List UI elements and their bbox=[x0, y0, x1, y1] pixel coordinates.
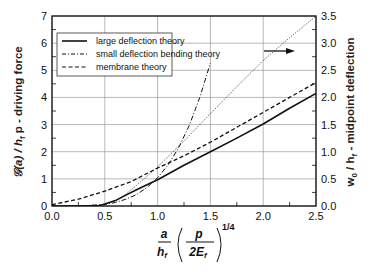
y-left-tick-label: 5 bbox=[41, 64, 47, 76]
x-title-p: p bbox=[194, 227, 202, 241]
y-right-tick-label: 2.5 bbox=[321, 64, 336, 76]
y-right-tick-label: 0.0 bbox=[321, 200, 336, 212]
y-left-tick-label: 0 bbox=[41, 200, 47, 212]
legend-label-small-deflection: small deflection bending theory bbox=[96, 49, 221, 59]
series-line-dashed bbox=[52, 83, 316, 205]
y-left-tick-label: 3 bbox=[41, 119, 47, 131]
right-axis-arrow bbox=[264, 48, 295, 54]
y-left-tick-label: 1 bbox=[41, 173, 47, 185]
series-line-solid bbox=[52, 93, 316, 206]
x-title-exponent: 1/4 bbox=[222, 222, 235, 232]
y-axis-left-title: 𝒢(a) / hf p - driving force bbox=[12, 46, 27, 177]
x-title-a: a bbox=[161, 227, 168, 241]
y-right-tick-label: 1.5 bbox=[321, 119, 336, 131]
left-paren bbox=[178, 228, 182, 262]
y-right-tick-label: 3.5 bbox=[321, 10, 336, 22]
x-title-hf: hf bbox=[157, 245, 168, 260]
x-axis-title: a hf p 2Ef 1/4 bbox=[157, 222, 235, 262]
legend-label-large-deflection: large deflection theory bbox=[96, 36, 185, 46]
legend-label-membrane: membrane theory bbox=[96, 62, 167, 72]
y-axis-right-title: w0 / hf - midpoint deflection bbox=[344, 38, 359, 188]
y-left-tick-label: 6 bbox=[41, 37, 47, 49]
x-tick-label: 2.0 bbox=[256, 210, 271, 222]
right-paren bbox=[217, 228, 221, 262]
y-left-tick-label: 4 bbox=[41, 91, 47, 103]
x-tick-label: 0.5 bbox=[97, 210, 112, 222]
arrow-right-icon bbox=[286, 48, 295, 54]
x-tick-label: 1.5 bbox=[203, 210, 218, 222]
series-line-dash-dot bbox=[52, 63, 210, 206]
chart: 0.00.51.01.52.02.5012345670.00.51.01.52.… bbox=[0, 0, 370, 273]
x-title-2ef: 2Ef bbox=[188, 245, 208, 260]
y-left-tick-label: 2 bbox=[41, 146, 47, 158]
y-left-tick-label: 7 bbox=[41, 10, 47, 22]
legend: large deflection theory small deflection… bbox=[57, 33, 221, 76]
y-right-tick-label: 3.0 bbox=[321, 37, 336, 49]
y-right-tick-label: 0.5 bbox=[321, 173, 336, 185]
x-tick-label: 1.0 bbox=[150, 210, 165, 222]
y-right-tick-label: 1.0 bbox=[321, 146, 336, 158]
y-right-tick-label: 2.0 bbox=[321, 91, 336, 103]
